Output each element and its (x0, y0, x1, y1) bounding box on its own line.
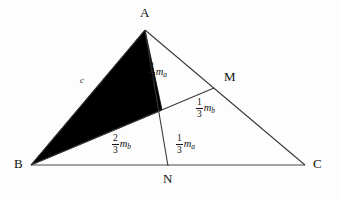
fraction-denominator: 3 (148, 72, 155, 83)
fraction-denominator: 3 (196, 108, 203, 119)
fraction-numerator: 1 (196, 98, 203, 108)
vertex-label-m: M (224, 70, 236, 83)
fraction-numerator: 2 (112, 134, 119, 144)
segment-measure-one-third-mb: 1 3 m b (196, 98, 215, 119)
median-subscript: a (191, 143, 195, 151)
segment-measure-one-third-ma: 1 3 m a (176, 134, 195, 155)
fraction-two-thirds-b: 2 3 (112, 134, 119, 155)
side-label-c: c (80, 76, 84, 85)
median-subscript: a (163, 71, 167, 79)
vertex-label-b: B (14, 157, 23, 170)
median-symbol: m (204, 103, 212, 114)
fraction-one-third-a: 1 3 (176, 134, 183, 155)
fraction-numerator: 1 (176, 134, 183, 144)
vertex-label-c: C (313, 157, 322, 170)
fraction-numerator: 2 (148, 62, 155, 72)
segment-measure-two-thirds-mb: 2 3 m b (112, 134, 131, 155)
median-subscript: b (127, 143, 131, 151)
vertex-label-a: A (140, 6, 149, 19)
geometry-figure: A B C M N c 2 3 m a 1 3 m b 2 3 m b 1 3 (0, 0, 340, 198)
median-symbol: m (120, 139, 128, 150)
vertex-label-n: N (163, 172, 172, 185)
median-symbol: m (184, 139, 192, 150)
median-symbol: m (156, 67, 164, 78)
segment-side-ac (145, 30, 305, 165)
segment-measure-two-thirds-ma: 2 3 m a (148, 62, 167, 83)
median-subscript: b (211, 107, 215, 115)
fraction-two-thirds-a: 2 3 (148, 62, 155, 83)
shaded-triangle-abg (31, 30, 162, 165)
fraction-one-third-b: 1 3 (196, 98, 203, 119)
triangle-drawing (0, 0, 340, 198)
fraction-denominator: 3 (112, 144, 119, 155)
fraction-denominator: 3 (176, 144, 183, 155)
